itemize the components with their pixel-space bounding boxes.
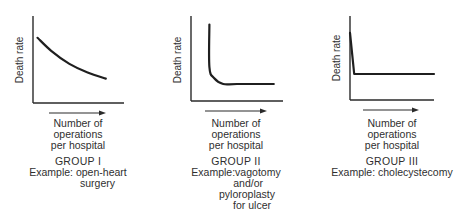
- example-text: surgery: [80, 177, 116, 189]
- y-axis-label: Death rate: [172, 36, 183, 83]
- x-axis-label-line: per hospital: [365, 139, 419, 151]
- panel-group-3: Death rate Number of operations per hosp…: [331, 16, 453, 178]
- death-rate-curve-group-2: [209, 25, 274, 85]
- example-text: for ulcer: [233, 199, 271, 211]
- x-axis-label-line: per hospital: [209, 139, 263, 151]
- panel-group-1: Death rate Number of operations per hosp…: [14, 16, 127, 189]
- death-rate-curve-group-1: [38, 38, 106, 79]
- arrowhead-icon: [412, 108, 419, 113]
- x-axis-label-line: per hospital: [51, 139, 105, 151]
- example-text: Example: cholecystecomy: [331, 166, 453, 178]
- panel-group-2: Death rate Number of operations per hosp…: [172, 16, 283, 211]
- volume-outcome-diagram: Death rate Number of operations per hosp…: [0, 0, 460, 214]
- arrowhead-icon: [260, 109, 267, 114]
- y-axis-label: Death rate: [14, 36, 25, 83]
- death-rate-curve-group-3: [350, 33, 434, 74]
- arrowhead-icon: [99, 111, 106, 116]
- y-axis-label: Death rate: [331, 34, 342, 81]
